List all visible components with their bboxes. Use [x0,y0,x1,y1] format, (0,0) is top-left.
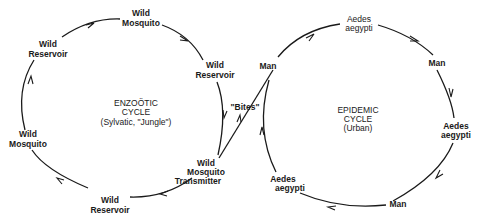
arrow-icon [306,34,314,41]
svg-text:Mosquito: Mosquito [122,18,160,28]
arrow-icon [449,88,453,97]
epidemic-note: (Urban) [344,123,373,133]
enzootic-subtitle: CYCLE [122,107,151,117]
arrow-icon [237,115,241,122]
svg-text:aegypti: aegypti [441,130,471,140]
svg-text:aegypti: aegypti [275,183,305,193]
enzootic-labels: Wild Mosquito Wild Reservoir Wild Mosqui… [9,8,235,215]
node-wild-reservoir-bottom: Wild [101,195,119,205]
arrow-icon [160,191,168,196]
node-wild-reservoir-right: Wild [206,60,224,70]
arc-mosquito-to-reservoir-right [162,25,203,60]
arc-mosquito-to-reservoir-left [22,60,34,130]
arc-reservoir-to-transmitter [217,82,223,155]
enzootic-note: (Sylvatic, "Jungle") [101,117,172,127]
arrow-icon [328,206,336,210]
svg-text:Reservoir: Reservoir [90,205,130,215]
transmission-diagram: "Bites" Wild Mosquito Wild Reservoir Wil… [0,0,479,221]
svg-text:Reservoir: Reservoir [28,49,68,59]
arrow-icon [223,110,227,118]
arrow-icon [28,76,33,84]
svg-text:Mosquito: Mosquito [9,139,47,149]
arc-aedes-to-man-right [378,25,433,55]
arc-aedes-to-man-bottom-right [393,143,453,201]
arrow-icon [57,178,64,184]
node-wild-reservoir-left: Wild [39,39,57,49]
svg-text:aegypti: aegypti [345,23,373,33]
node-man-bottom: Man [390,199,407,209]
node-wild-mosquito-top: Wild [132,8,150,18]
arc-aedes-to-man-left [263,80,276,172]
arrow-icon [436,170,443,178]
node-man-left: Man [260,61,277,71]
arc-man-to-aedes-bottom-left [300,193,386,206]
node-man-right: Man [429,58,446,68]
node-wild-mosquito-left: Wild [19,129,37,139]
arc-reservoir-to-mosquito-top [62,19,120,37]
link-transmitter-to-man [219,70,273,158]
bites-label: "Bites" [231,102,260,112]
bites-link: "Bites" [219,70,273,158]
svg-text:Transmitter: Transmitter [175,176,222,186]
svg-text:Reservoir: Reservoir [195,70,235,80]
